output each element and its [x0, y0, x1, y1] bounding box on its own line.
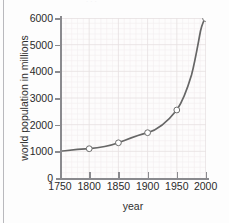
y-tick-3000: [55, 98, 61, 100]
y-tick-2000: [55, 125, 61, 127]
y-tick-label-4000: 4000: [13, 66, 53, 77]
y-tick-label-5000: 5000: [13, 40, 53, 51]
data-point-1800: [86, 146, 92, 152]
data-point-1900: [145, 130, 151, 136]
y-tick-5000: [55, 45, 61, 47]
x-axis-title: year: [60, 200, 206, 212]
plot-area: [60, 18, 206, 178]
page-left-border: [3, 0, 4, 223]
y-tick-label-2000: 2000: [13, 120, 53, 131]
x-tick-2000: [206, 172, 208, 178]
x-tick-1750: [60, 172, 62, 178]
data-point-1950: [174, 107, 180, 113]
y-tick-1000: [55, 151, 61, 153]
y-tick-label-3000: 3000: [13, 93, 53, 104]
x-tick-1900: [148, 172, 150, 178]
y-tick-4000: [55, 71, 61, 73]
major-horizontal-gridlines: [60, 19, 206, 152]
x-tick-1950: [177, 172, 179, 178]
y-tick-label-6000: 6000: [13, 13, 53, 24]
x-tick-1800: [89, 172, 91, 178]
population-growth-chart-figure: ... world population in millions: [0, 0, 229, 223]
population-curve: [60, 19, 206, 152]
x-tick-label-2000: 2000: [186, 181, 226, 192]
y-tick-label-1000: 1000: [13, 146, 53, 157]
x-tick-1850: [118, 172, 120, 178]
data-point-1850: [116, 140, 122, 146]
chart-canvas: [60, 18, 206, 178]
y-tick-6000: [55, 18, 61, 20]
clipped-header-text: ...: [86, 0, 146, 2]
data-point-2000: [203, 18, 206, 21]
